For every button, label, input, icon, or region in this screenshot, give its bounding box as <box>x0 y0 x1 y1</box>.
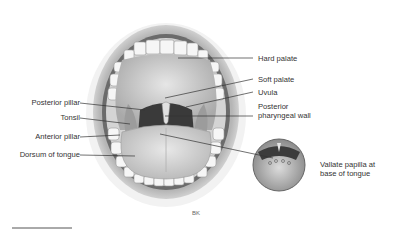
label-soft-palate: Soft palate <box>258 75 294 84</box>
oral-cavity-diagram: Posterior pillar Tonsil Anterior pillar … <box>0 0 394 232</box>
label-vallate-papilla: Vallate papilla at base of tongue <box>320 160 375 178</box>
label-posterior-pharyngeal-wall: Posterior pharyngeal wall <box>258 102 311 120</box>
artist-initials: BK <box>192 209 200 218</box>
label-uvula: Uvula <box>258 88 277 97</box>
label-anterior-pillar: Anterior pillar <box>6 132 80 141</box>
label-posterior-pillar: Posterior pillar <box>6 98 80 107</box>
label-hard-palate: Hard palate <box>258 54 297 63</box>
label-tonsil: Tonsil <box>6 113 80 122</box>
label-dorsum-of-tongue: Dorsum of tongue <box>6 150 80 159</box>
